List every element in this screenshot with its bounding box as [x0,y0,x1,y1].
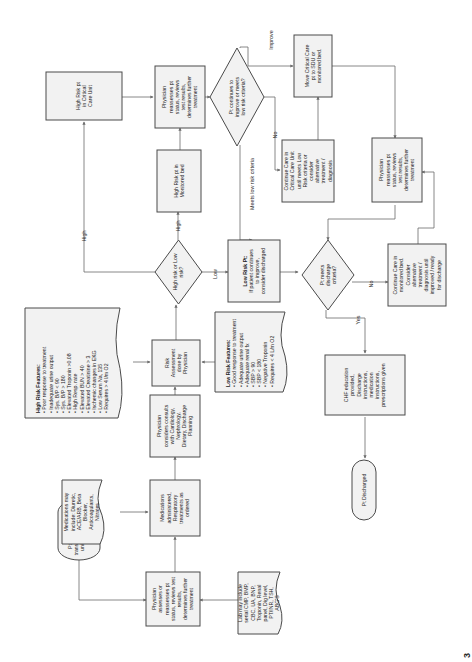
node-text: ACE/ARB, Beta [76,494,82,530]
edge-label-high-ccu: High [81,230,87,241]
node-title: Low Risk Features: [225,339,231,387]
node-text: monitored bed. [398,258,404,293]
node-title: High Risk Features: [35,364,41,413]
node-text: improve or meets [234,77,240,117]
node-text: consider discharged [260,248,266,295]
list-item: • Sys. B/P > 180 [60,375,66,413]
nodes: Pt with acute HFtransported to nursingun… [25,35,446,634]
node-text: criteria? [331,266,337,285]
node-text: until meets Low [296,153,302,189]
node-text: Dietary, Discharge [181,405,187,447]
node-text: status, reviews [174,79,180,114]
list-item: • Elevated BUN > 40 [79,365,85,413]
node-text: treatment [192,85,198,107]
node-text: PT/INR, TSH, [268,587,274,619]
node-continue-monitored: Continue Care inmonitored bed.Consideral… [388,244,446,306]
edge-label-high-monitored: High [175,220,181,231]
node-text: treatments as [178,492,184,524]
node-text: Nitrates [94,503,100,521]
node-meds-admin: Medicationsadministered,Respiratorytreat… [150,480,200,536]
node-reassess-top: Physicianreassesses ptstatus, reviewstes… [155,66,205,128]
node-text: Physician [182,352,188,374]
node-text: High Risk pt in [173,164,179,198]
list-item: • Elevated Creatinine > 3 [85,356,91,413]
node-text: low risk criteria? [240,78,246,115]
edge-reassess-discharge [328,205,395,240]
list-item: • Requires > 4 l/m O2 [103,363,109,413]
node-text: serial CMP, BMP, [243,583,249,623]
node-text: treatment / [320,158,326,183]
list-item: • Negative Troponin [262,342,268,387]
node-text: ABG'S [274,595,280,611]
node-discharged: Pt Discharged [352,460,376,520]
node-text: Physician [161,86,167,108]
node-text: determines further [182,578,188,620]
node-low-features: Low Risk Features:• Good response to tre… [215,312,287,392]
node-assess: Physicianassesses orreassesses ptstatus,… [146,572,200,626]
node-text: pt to SDU or [310,51,316,80]
node-text: status, reviews test [170,576,176,621]
list-item: • Ischemic changes in EKG [91,350,97,413]
node-consults: Physicianconsiders consultswith Cardiolo… [150,395,200,457]
node-text: Lab may include [237,584,243,622]
node-low-risk-pt: Low Risk Pt:If patient continuesto impro… [228,240,280,302]
node-text: risk? [178,266,184,277]
node-text: Anticoagulants, [88,494,94,529]
list-item: • Elevated Troponin >0.08 [66,353,72,413]
node-text: ordered [184,499,190,517]
node-text: Assessment [170,348,176,377]
node-continue-ccu: Continue Care inCritical Care Unituntil … [282,140,334,202]
node-move-ccu: Move Critical Carept to SDU ormonitored … [294,35,332,97]
node-text: diagnosis until [423,259,429,292]
node-risk-assess: RiskAssessmentdone byPhysician [152,340,200,386]
node-text: discharge [325,264,331,287]
node-text: Move Critical Care [304,45,310,88]
edge-label-no-ccu: No [272,132,278,139]
node-text: Troponin, Renal [256,585,262,622]
node-text: treatment / [417,262,423,287]
node-text: Care Unit [87,84,93,106]
node-title: Low Risk Pt: [242,255,248,286]
node-text: treatment [409,158,415,180]
node-text: test results, [180,84,186,111]
edge-label-yes: Yes [355,315,361,324]
node-high-ccu: High Risk ptin CriticalCare Unit [46,72,122,120]
node-text: administered, [166,492,172,523]
node-high-monitored: High Risk pt inMonitored bed [157,150,201,212]
list-item: • Good response to treatment [231,319,237,387]
node-text: for discharge [436,260,442,290]
flowchart: High High Low Improve No Meets low risk … [0,0,472,662]
node-text: Consider [405,264,411,285]
node-text: improved / ready [429,255,435,294]
node-text: Pt meets [319,264,325,285]
node-reassess-right: Physicianreassesses ptstatus, reviewstes… [372,138,422,202]
node-text: Continue Care in [392,255,398,294]
node-text: Risk criteria or [302,154,308,187]
list-item: • Requires < 4 L/m O2 [269,336,275,387]
node-text: medication [368,372,374,397]
list-item: • Adequate renal fx [244,343,250,387]
node-text: Respiratory [172,494,178,521]
node-text: Medications may [63,492,69,531]
node-text: High risk or Low [172,253,178,290]
node-text: prescriptions given [380,363,386,406]
node-text: considers consults [163,404,169,447]
node-text: Physician [378,159,384,181]
node-discharge-decision: Pt meetsdischargecriteria? [302,240,354,310]
node-text: reassesses pt [164,582,170,615]
node-text: in Critical [81,85,87,106]
node-text: Continue Care in [283,151,289,190]
node-text: provided, [349,374,355,395]
node-text: include: Diuretic, [70,493,76,531]
node-text: Monitored bed [179,164,185,197]
node-text: treatment [188,587,194,609]
edge-label-no-discharge: No [368,281,374,288]
node-text: consider [308,161,314,181]
node-text: alternative [411,263,417,287]
node-text: instructions, [374,371,380,399]
node-text: Nephrology, [175,412,181,440]
list-item: • Low Serum Na, 135 [97,364,103,413]
edge-label-low: Low [212,269,218,279]
list-item: • High Resp. rate [72,374,78,413]
node-text: status, reviews [391,152,397,187]
